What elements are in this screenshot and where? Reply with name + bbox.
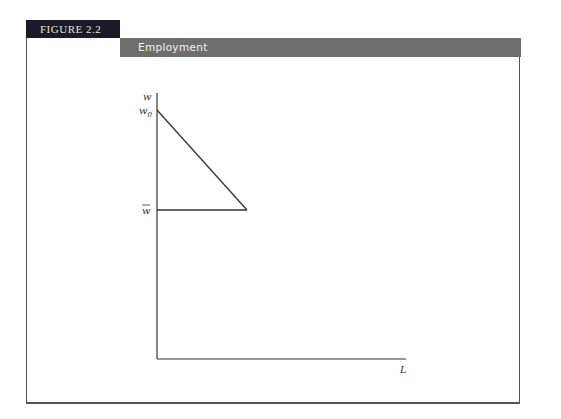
chart-plot: w w0 w L <box>0 0 561 419</box>
wbar-label: w <box>142 205 151 216</box>
y-axis-label: w <box>143 91 152 102</box>
x-axis-label: L <box>399 364 407 375</box>
demand-line <box>157 110 247 210</box>
w0-label: w0 <box>139 105 153 119</box>
